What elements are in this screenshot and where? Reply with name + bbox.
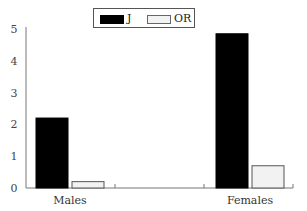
legend-swatch-j (100, 15, 124, 24)
y-tick-label: 1 (11, 150, 18, 163)
legend-label-j: J (127, 12, 131, 25)
bar-j-females (216, 34, 248, 188)
legend-swatch-or (147, 15, 171, 24)
x-category-label: Females (227, 194, 274, 207)
y-tick-label: 4 (11, 55, 18, 68)
y-tick-label: 3 (11, 87, 18, 100)
bar-or-females (252, 166, 284, 188)
legend: J OR (93, 8, 195, 28)
legend-label-or: OR (174, 12, 191, 25)
bar-chart-plot: 012345MalesFemales (0, 0, 307, 211)
bar-or-males (72, 182, 104, 188)
bar-j-males (36, 118, 68, 188)
y-tick-label: 2 (11, 118, 18, 131)
y-tick-label: 0 (11, 182, 18, 195)
x-category-label: Males (53, 194, 87, 207)
chart: 012345MalesFemales J OR (0, 0, 307, 211)
y-tick-label: 5 (11, 23, 18, 36)
